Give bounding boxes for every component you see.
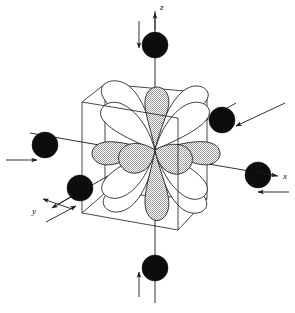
axis-tip-y (52, 196, 72, 208)
ligand-sphere-x-right (245, 162, 271, 188)
ligand-sphere-x-left (32, 132, 58, 158)
axis-label-z: z (159, 2, 164, 12)
orbital-lobe-group (92, 81, 220, 221)
ligand-sphere-z-top (142, 32, 168, 58)
figure-canvas: z x y (0, 0, 295, 313)
axis-label-x: x (282, 171, 287, 181)
ligand-sphere-y-back (209, 107, 235, 133)
ligand-sphere-z-bottom (142, 255, 168, 281)
axis-label-y: y (31, 206, 36, 216)
crystal-field-figure: z x y (0, 0, 295, 313)
approach-arrow-y-front-secondary (43, 199, 72, 209)
approach-arrow-y-back (236, 103, 285, 126)
